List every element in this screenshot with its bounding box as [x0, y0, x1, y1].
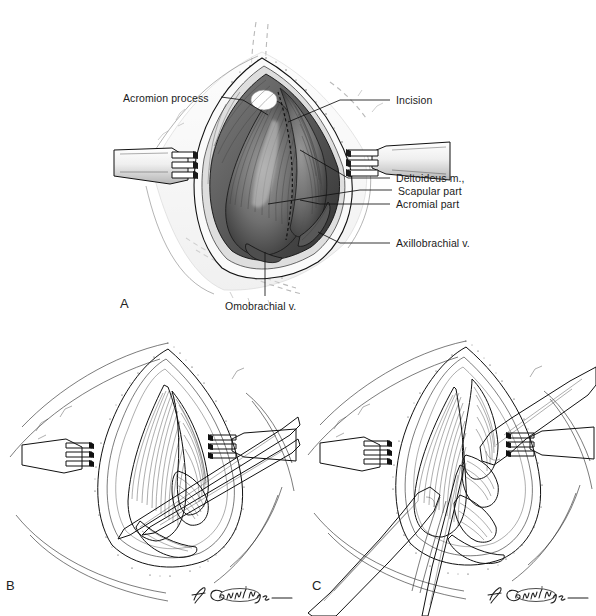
panel-b: B — [0, 335, 300, 616]
surgical-figure: Acromion process Incision Deltoideus m.,… — [0, 0, 596, 616]
retractor-left — [114, 148, 198, 184]
panel-letter-c: C — [312, 578, 321, 593]
panel-b-artwork — [0, 335, 300, 616]
artist-signature-c — [484, 584, 594, 608]
muscle-bellies-b — [128, 385, 208, 557]
label-axillobrachial-vein: Axillobrachial v. — [396, 237, 470, 249]
label-omobrachial-vein: Omobrachial v. — [225, 300, 296, 312]
panel-letter-a: A — [120, 296, 129, 311]
label-deltoideus-muscle: Deltoideus m., — [396, 172, 465, 184]
panel-a: Acromion process Incision Deltoideus m.,… — [0, 0, 596, 330]
panel-letter-b: B — [6, 578, 15, 593]
panel-c: C — [300, 335, 596, 616]
artist-signature-b — [188, 584, 298, 608]
skin-contours-b — [10, 343, 294, 601]
label-acromial-part: Acromial part — [396, 198, 459, 210]
label-acromion-process: Acromion process — [123, 92, 209, 104]
skin-contours-c — [308, 341, 592, 599]
retractor-left-b — [22, 439, 94, 473]
muscle-bellies-c — [414, 379, 504, 564]
label-incision: Incision — [396, 94, 432, 106]
skin-hair-b — [36, 368, 244, 439]
retractor-left-c — [320, 437, 392, 471]
panel-c-artwork — [300, 335, 596, 616]
skin-hair-c — [334, 366, 542, 437]
label-scapular-part: Scapular part — [398, 185, 462, 197]
panel-a-artwork — [0, 0, 596, 330]
